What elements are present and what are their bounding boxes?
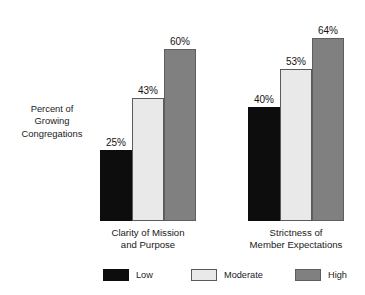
legend-label: High <box>328 269 347 281</box>
legend-swatch-icon <box>191 269 217 281</box>
bar-group-clarity-of-mission: 25% 43% 60% <box>100 0 196 221</box>
category-label-clarity-of-mission: Clarity of Mission and Purpose <box>88 227 208 251</box>
category-label-line-2: Member Expectations <box>231 239 361 251</box>
legend-item-high[interactable]: High <box>295 268 347 282</box>
bar-low[interactable] <box>100 150 132 221</box>
bar-high[interactable] <box>312 38 344 221</box>
bar-value-label: 40% <box>244 94 284 105</box>
bar-value-label: 43% <box>128 85 168 96</box>
bar-value-label: 64% <box>308 25 348 36</box>
category-label-line-1: Strictness of <box>231 227 361 239</box>
plot-area: 25% 43% 60% 40% 53% 64% <box>0 0 365 221</box>
bar-group-strictness-of-member-expectations: 40% 53% 64% <box>248 0 344 221</box>
bar-moderate[interactable] <box>280 69 312 221</box>
category-label-line-1: Clarity of Mission <box>88 227 208 239</box>
legend-swatch-icon <box>295 269 321 281</box>
chart-legend: Low Moderate High <box>0 268 365 284</box>
legend-item-low[interactable]: Low <box>103 268 153 282</box>
bar-low[interactable] <box>248 107 280 221</box>
bar-moderate[interactable] <box>132 98 164 221</box>
legend-label: Low <box>136 269 153 281</box>
bar-value-label: 53% <box>276 56 316 67</box>
bar-value-label: 25% <box>96 137 136 148</box>
bar-high[interactable] <box>164 49 196 221</box>
category-label-strictness-of-member-expectations: Strictness of Member Expectations <box>231 227 361 251</box>
category-label-line-2: and Purpose <box>88 239 208 251</box>
bar-chart: Percent of Growing Congregations 25% 43%… <box>0 0 365 295</box>
legend-swatch-icon <box>103 269 129 281</box>
legend-item-moderate[interactable]: Moderate <box>191 268 263 282</box>
bar-value-label: 60% <box>160 36 200 47</box>
legend-label: Moderate <box>224 269 263 281</box>
